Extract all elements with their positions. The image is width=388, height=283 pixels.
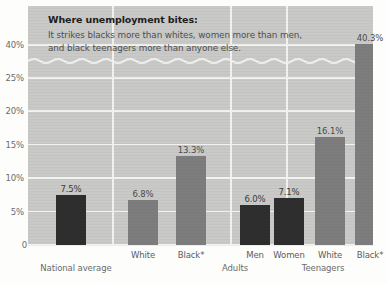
bar-women-4 (274, 198, 304, 245)
gridline (28, 110, 373, 112)
bar-value-label: 16.1% (309, 126, 351, 136)
y-axis-tick-label: 40% (5, 40, 24, 50)
bar-white-5 (315, 137, 345, 245)
bar-value-label: 7.5% (50, 184, 92, 194)
x-axis-group-label: Teenagers (288, 263, 358, 273)
chart-title: Where unemployment bites: (48, 14, 318, 25)
bar-men-3 (240, 205, 270, 245)
title-block: Where unemployment bites: It strikes bla… (48, 14, 318, 55)
bar-white-1 (128, 200, 158, 245)
chart-subtitle: It strikes blacks more than whites, wome… (48, 29, 318, 55)
y-axis-tick-label: 10% (5, 173, 24, 183)
y-axis-tick-label: 0 (22, 240, 27, 250)
y-axis-tick-label: 15% (5, 140, 24, 150)
bar-black-2 (176, 156, 206, 245)
y-axis-tick-label: 20% (5, 106, 24, 116)
x-axis-group-label: National average (28, 263, 124, 273)
x-axis-category-label: Black* (345, 250, 388, 260)
bar-value-label: 40.3% (349, 33, 388, 43)
x-axis-category-label: Black* (166, 250, 216, 260)
bar-value-label: 13.3% (170, 145, 212, 155)
gridline (28, 77, 373, 79)
x-axis-category-label: White (118, 250, 168, 260)
bar-value-label: 6.8% (122, 189, 164, 199)
bar-national-average-0 (56, 195, 86, 245)
bar-black-6 (355, 44, 373, 245)
axis-break-indicator (28, 56, 373, 66)
bar-value-label: 7.1% (268, 187, 310, 197)
y-axis-tick-label: 5% (11, 207, 24, 217)
x-axis-group-label: Adults (200, 263, 270, 273)
y-axis-tick-label: 25% (5, 73, 24, 83)
